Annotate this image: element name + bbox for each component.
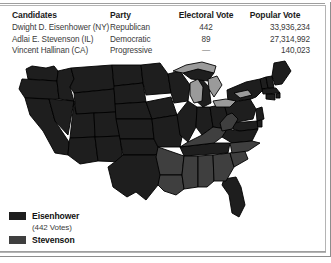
cell-popular-vote: 27,314,992 [240, 34, 314, 46]
table-header-row: Candidates Party Electoral Vote Popular … [12, 9, 312, 22]
state-massachusetts [262, 88, 280, 94]
column-header-electoral-vote: Electoral Vote [172, 9, 240, 22]
cell-candidate: Dwight D. Eisenhower (NY) [12, 22, 110, 34]
cell-candidate: Adlai E. Stevenson (IL) [12, 34, 110, 46]
state-kansas [116, 119, 154, 139]
legend-label-stevenson: Stevenson [32, 235, 75, 245]
state-oklahoma [120, 139, 160, 155]
legend-item-stevenson: Stevenson [9, 233, 139, 246]
cell-popular-vote: 33,936,234 [240, 22, 314, 34]
state-shapes [19, 61, 291, 217]
cell-electoral-vote: 442 [172, 22, 240, 34]
state-wyoming [74, 89, 116, 114]
election-results-table: Candidates Party Electoral Vote Popular … [12, 9, 312, 57]
table-body: Dwight D. Eisenhower (NY) Republican 442… [12, 22, 312, 57]
table-row: Adlai E. Stevenson (IL) Democratic 89 27… [12, 34, 312, 46]
frame-bottom-rule-outer [0, 256, 331, 257]
column-header-candidates: Candidates [12, 9, 110, 22]
legend-swatch-eisenhower [9, 212, 26, 220]
state-louisiana [158, 175, 184, 195]
state-south-dakota [114, 83, 146, 104]
state-north-dakota [112, 65, 143, 86]
state-mississippi [182, 156, 198, 189]
table-row: Vincent Hallinan (CA) Progressive — 140,… [12, 45, 312, 57]
state-north-carolina [230, 141, 260, 153]
state-florida [222, 177, 245, 217]
state-maine [272, 61, 291, 85]
state-connecticut [266, 94, 275, 100]
state-montana [70, 65, 114, 93]
election-figure: Candidates Party Electoral Vote Popular … [0, 0, 331, 263]
legend-item-eisenhower: Eisenhower [9, 209, 139, 222]
legend-swatch-stevenson [9, 236, 26, 244]
state-new-jersey [256, 107, 264, 121]
frame-top-rule [0, 3, 325, 4]
cell-electoral-vote: 89 [172, 34, 240, 46]
column-header-popular-vote: Popular Vote [240, 9, 310, 22]
state-alabama [198, 155, 214, 187]
column-header-party: Party [110, 9, 172, 22]
cell-popular-vote: 140,023 [240, 45, 314, 57]
cell-party: Republican [110, 22, 172, 34]
state-washington [26, 66, 58, 81]
table-row: Dwight D. Eisenhower (NY) Republican 442… [12, 22, 312, 34]
state-minnesota [141, 63, 171, 95]
state-arkansas [156, 147, 184, 175]
cell-candidate: Vincent Hallinan (CA) [12, 45, 110, 57]
state-arizona [68, 137, 98, 164]
cell-party: Democratic [110, 34, 172, 46]
cell-party: Progressive [110, 45, 172, 57]
legend-label-eisenhower: Eisenhower [32, 211, 79, 221]
state-rhode-island [276, 93, 280, 98]
cell-electoral-vote: — [172, 45, 240, 57]
map-legend: Eisenhower (442 Votes) Stevenson [9, 209, 139, 246]
state-oregon [19, 79, 59, 99]
legend-sub-eisenhower: (442 Votes) [32, 222, 139, 233]
